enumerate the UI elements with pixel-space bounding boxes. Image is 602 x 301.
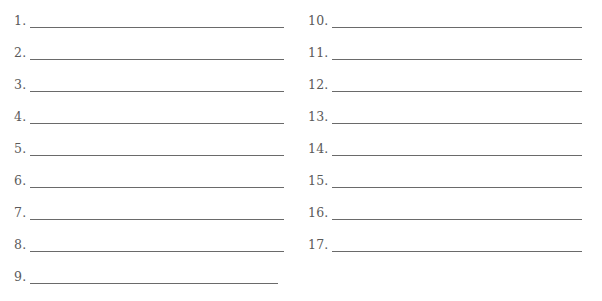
item-number: 17. — [308, 237, 328, 252]
list-item-1[interactable]: 1. — [14, 10, 286, 30]
answer-line[interactable] — [30, 219, 284, 220]
answer-line[interactable] — [332, 27, 582, 28]
list-item-15[interactable]: 15. — [308, 170, 584, 190]
list-item-7[interactable]: 7. — [14, 202, 286, 222]
answer-line[interactable] — [30, 155, 284, 156]
item-number: 4. — [14, 109, 26, 124]
answer-line[interactable] — [30, 283, 278, 284]
answer-line[interactable] — [332, 187, 582, 188]
item-number: 12. — [308, 77, 328, 92]
answer-line[interactable] — [332, 219, 582, 220]
list-item-12[interactable]: 12. — [308, 74, 584, 94]
list-item-2[interactable]: 2. — [14, 42, 286, 62]
item-number: 9. — [14, 269, 26, 284]
answer-line[interactable] — [332, 91, 582, 92]
item-number: 1. — [14, 13, 26, 28]
answer-line[interactable] — [30, 123, 284, 124]
item-number: 6. — [14, 173, 26, 188]
list-item-17[interactable]: 17. — [308, 234, 584, 254]
item-number: 11. — [308, 45, 328, 60]
answer-line[interactable] — [332, 59, 582, 60]
list-item-5[interactable]: 5. — [14, 138, 286, 158]
list-item-16[interactable]: 16. — [308, 202, 584, 222]
item-number: 7. — [14, 205, 26, 220]
list-item-14[interactable]: 14. — [308, 138, 584, 158]
item-number: 10. — [308, 13, 328, 28]
item-number: 8. — [14, 237, 26, 252]
answer-line[interactable] — [30, 251, 284, 252]
item-number: 16. — [308, 205, 328, 220]
list-item-6[interactable]: 6. — [14, 170, 286, 190]
item-number: 15. — [308, 173, 328, 188]
list-item-4[interactable]: 4. — [14, 106, 286, 126]
answer-line[interactable] — [30, 59, 284, 60]
answer-line[interactable] — [332, 155, 582, 156]
list-item-8[interactable]: 8. — [14, 234, 286, 254]
item-number: 2. — [14, 45, 26, 60]
answer-line[interactable] — [30, 91, 284, 92]
list-item-10[interactable]: 10. — [308, 10, 584, 30]
list-item-11[interactable]: 11. — [308, 42, 584, 62]
list-item-13[interactable]: 13. — [308, 106, 584, 126]
item-number: 3. — [14, 77, 26, 92]
list-item-3[interactable]: 3. — [14, 74, 286, 94]
answer-line[interactable] — [332, 123, 582, 124]
answer-line[interactable] — [332, 251, 582, 252]
item-number: 13. — [308, 109, 328, 124]
list-item-9[interactable]: 9. — [14, 266, 286, 286]
item-number: 14. — [308, 141, 328, 156]
item-number: 5. — [14, 141, 26, 156]
answer-line[interactable] — [30, 187, 284, 188]
answer-line[interactable] — [30, 27, 284, 28]
